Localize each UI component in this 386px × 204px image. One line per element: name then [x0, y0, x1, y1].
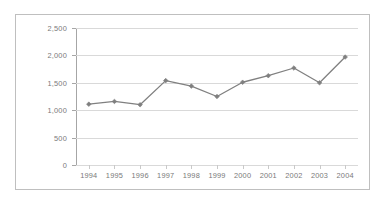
data-point-marker-1998 — [189, 84, 194, 89]
line-series-layer — [16, 15, 371, 191]
data-point-marker-1995 — [112, 99, 117, 104]
chart-frame: 05001,0001,5002,0002,500 199419951996199… — [15, 14, 370, 190]
chart-screenshot: 05001,0001,5002,0002,500 199419951996199… — [0, 0, 386, 204]
data-point-marker-1994 — [87, 102, 92, 107]
data-point-marker-2001 — [266, 73, 271, 78]
data-point-markers — [87, 55, 348, 107]
